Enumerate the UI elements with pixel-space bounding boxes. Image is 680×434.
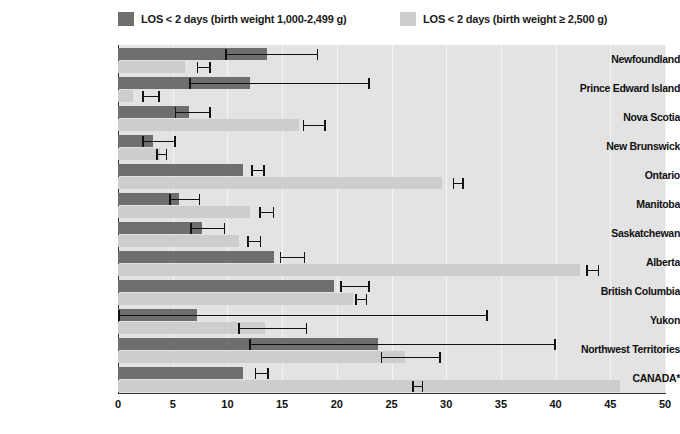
bar-normalbirthweight-1	[118, 90, 133, 102]
category-label-5: Manitoba	[568, 198, 680, 210]
bar-normalbirthweight-10	[118, 351, 405, 363]
bar-normalbirthweight-6	[118, 235, 239, 247]
error-cap-left	[175, 107, 177, 118]
error-cap-right	[166, 149, 168, 160]
error-cap-right	[273, 207, 275, 218]
error-cap-right	[317, 49, 319, 60]
x-tick-label-35: 35	[495, 398, 507, 410]
error-bar-normalbirthweight-4	[453, 178, 464, 189]
bar-normalbirthweight-2	[118, 119, 299, 131]
error-cap-left	[156, 149, 158, 160]
error-bar-normalbirthweight-6	[247, 236, 261, 247]
error-cap-left	[247, 236, 249, 247]
error-line	[118, 315, 488, 317]
category-label-8: British Columbia	[568, 285, 680, 297]
error-cap-left	[255, 368, 257, 379]
error-bar-lowbirthweight-10	[249, 339, 555, 350]
error-bar-lowbirthweight-5	[169, 194, 200, 205]
chart-legend: LOS < 2 days (birth weight 1,000-2,499 g…	[0, 12, 680, 36]
error-bar-normalbirthweight-9	[238, 323, 307, 334]
error-bar-lowbirthweight-3	[142, 136, 176, 147]
error-bar-normalbirthweight-7	[586, 265, 599, 276]
error-line	[303, 125, 326, 127]
error-cap-left	[142, 136, 144, 147]
bar-lowbirthweight-8	[118, 280, 334, 292]
category-label-1: Prince Edward Island	[568, 82, 680, 94]
error-cap-right	[209, 107, 211, 118]
x-tick-label-10: 10	[221, 398, 233, 410]
error-cap-right	[199, 194, 201, 205]
error-cap-left	[189, 78, 191, 89]
error-cap-right	[439, 352, 441, 363]
error-cap-left	[586, 265, 588, 276]
error-cap-right	[158, 91, 160, 102]
error-cap-left	[381, 352, 383, 363]
error-bar-normalbirthweight-3	[156, 149, 167, 160]
error-cap-left	[197, 62, 199, 73]
category-label-10: Northwest Territories	[568, 343, 680, 355]
x-tick-label-20: 20	[331, 398, 343, 410]
error-cap-left	[190, 223, 192, 234]
error-cap-right	[224, 223, 226, 234]
error-bar-lowbirthweight-9	[118, 310, 488, 321]
x-tick-label-0: 0	[115, 398, 121, 410]
error-cap-left	[169, 194, 171, 205]
error-bar-lowbirthweight-0	[225, 49, 318, 60]
error-cap-right	[368, 78, 370, 89]
category-label-4: Ontario	[568, 169, 680, 181]
error-cap-left	[142, 91, 144, 102]
gridline-40	[556, 45, 557, 393]
error-cap-left	[225, 49, 227, 60]
x-tick-label-5: 5	[170, 398, 176, 410]
error-line	[238, 328, 307, 330]
error-cap-right	[174, 136, 176, 147]
error-cap-right	[554, 339, 556, 350]
gridline-45	[610, 45, 611, 393]
error-bar-lowbirthweight-6	[190, 223, 225, 234]
error-cap-right	[263, 165, 265, 176]
bar-normalbirthweight-5	[118, 206, 250, 218]
error-line	[249, 344, 555, 346]
legend-item-0: LOS < 2 days (birth weight 1,000-2,499 g…	[118, 12, 346, 26]
x-tick-label-50: 50	[659, 398, 671, 410]
error-bar-normalbirthweight-10	[381, 352, 441, 363]
error-line	[175, 112, 211, 114]
error-bar-normalbirthweight-8	[355, 294, 367, 305]
error-bar-normalbirthweight-11	[412, 381, 423, 392]
category-label-9: Yukon	[568, 314, 680, 326]
error-cap-left	[355, 294, 357, 305]
legend-swatch-icon-0	[118, 12, 134, 26]
error-line	[142, 141, 176, 143]
category-label-7: Alberta	[568, 256, 680, 268]
error-bar-lowbirthweight-11	[255, 368, 269, 379]
error-cap-left	[280, 252, 282, 263]
error-line	[190, 228, 225, 230]
bar-lowbirthweight-7	[118, 251, 274, 263]
error-cap-left	[340, 281, 342, 292]
category-label-3: New Brunswick	[568, 140, 680, 152]
error-cap-right	[486, 310, 488, 321]
error-cap-right	[324, 120, 326, 131]
error-bar-normalbirthweight-2	[303, 120, 326, 131]
error-line	[225, 54, 318, 56]
error-line	[169, 199, 200, 201]
gridline-50	[665, 45, 666, 393]
error-bar-lowbirthweight-1	[189, 78, 370, 89]
bar-normalbirthweight-4	[118, 177, 442, 189]
error-bar-lowbirthweight-8	[340, 281, 370, 292]
bar-normalbirthweight-7	[118, 264, 580, 276]
x-tick-label-25: 25	[385, 398, 397, 410]
category-label-0: Newfoundland	[568, 53, 680, 65]
error-line	[189, 83, 370, 85]
bar-lowbirthweight-4	[118, 164, 243, 176]
error-cap-right	[209, 62, 211, 73]
error-cap-right	[368, 281, 370, 292]
error-line	[340, 286, 370, 288]
x-tick-label-40: 40	[549, 398, 561, 410]
x-axis-line	[118, 393, 666, 394]
error-line	[280, 257, 305, 259]
error-cap-left	[251, 165, 253, 176]
error-cap-right	[422, 381, 424, 392]
category-label-2: Nova Scotia	[568, 111, 680, 123]
error-cap-left	[412, 381, 414, 392]
